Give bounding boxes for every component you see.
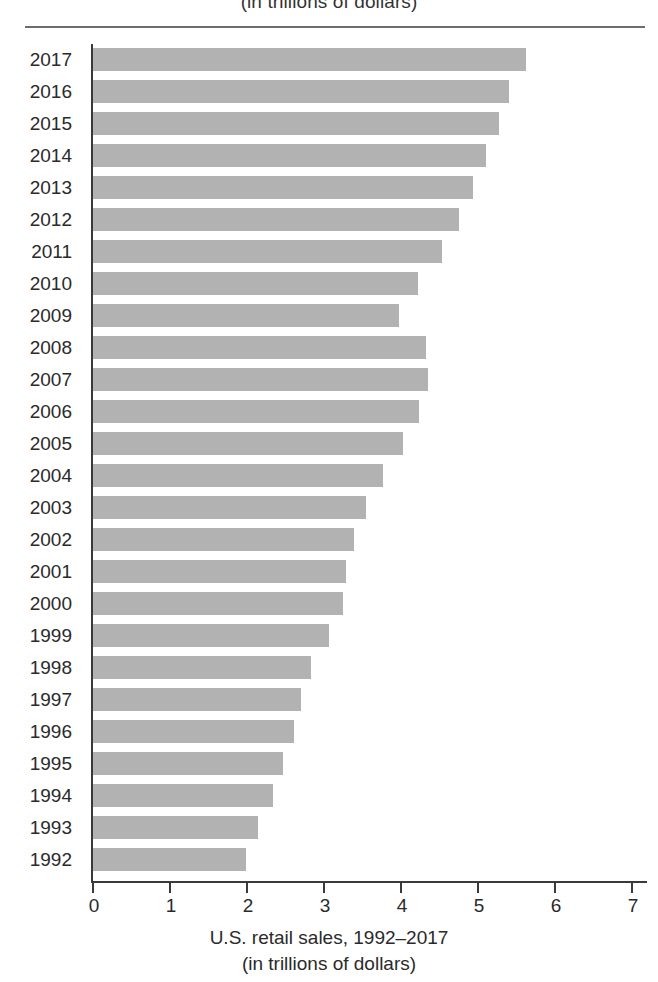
x-axis-tick-label: 1 <box>151 895 191 917</box>
x-axis-caption: U.S. retail sales, 1992–2017 (in trillio… <box>0 925 658 977</box>
bar-row-label: 2017 <box>0 49 72 71</box>
bar-row: 2003 <box>0 496 658 528</box>
bar-row: 2009 <box>0 304 658 336</box>
bar-row: 2010 <box>0 272 658 304</box>
bar-row: 2005 <box>0 432 658 464</box>
bar <box>93 48 526 71</box>
bar-row: 1995 <box>0 752 658 784</box>
bar <box>93 624 329 647</box>
bar <box>93 144 486 167</box>
bar-row-label: 2012 <box>0 209 72 231</box>
bar <box>93 80 509 103</box>
bar <box>93 432 403 455</box>
bar-row-label: 1997 <box>0 689 72 711</box>
bar-row-label: 2014 <box>0 145 72 167</box>
x-axis-tick <box>169 883 171 893</box>
bar-row: 2012 <box>0 208 658 240</box>
bar-row-label: 1996 <box>0 721 72 743</box>
bar-row: 1999 <box>0 624 658 656</box>
x-axis-caption-line2: (in trillions of dollars) <box>0 951 658 977</box>
x-axis-line <box>91 881 647 883</box>
bar-row-label: 2009 <box>0 305 72 327</box>
bar <box>93 752 283 775</box>
bar-row-label: 2006 <box>0 401 72 423</box>
bar <box>93 816 258 839</box>
bar <box>93 528 354 551</box>
bar <box>93 112 499 135</box>
bar-row-label: 2005 <box>0 433 72 455</box>
bar <box>93 336 426 359</box>
bar <box>93 464 383 487</box>
bar-row: 2015 <box>0 112 658 144</box>
bar-row: 2004 <box>0 464 658 496</box>
bar-row-label: 2002 <box>0 529 72 551</box>
x-axis-tick <box>631 883 633 893</box>
bar-row: 1998 <box>0 656 658 688</box>
bar-row-label: 2015 <box>0 113 72 135</box>
bar <box>93 240 442 263</box>
bar-row: 2007 <box>0 368 658 400</box>
bar-row-label: 2008 <box>0 337 72 359</box>
x-axis-tick-label: 3 <box>305 895 345 917</box>
bar-row: 2000 <box>0 592 658 624</box>
bar-row: 1992 <box>0 848 658 880</box>
x-axis-tick <box>323 883 325 893</box>
bar <box>93 560 346 583</box>
x-axis-tick <box>246 883 248 893</box>
bar-chart: 2017201620152014201320122011201020092008… <box>0 0 658 982</box>
bar <box>93 496 366 519</box>
bar-row-label: 1993 <box>0 817 72 839</box>
x-axis-caption-line1: U.S. retail sales, 1992–2017 <box>210 927 449 948</box>
bar <box>93 208 459 231</box>
bar-row-label: 2004 <box>0 465 72 487</box>
bar-row-label: 2000 <box>0 593 72 615</box>
x-axis-tick-label: 4 <box>382 895 422 917</box>
bar <box>93 400 419 423</box>
bar-row: 1994 <box>0 784 658 816</box>
bar <box>93 304 399 327</box>
bar <box>93 656 311 679</box>
bar-row-label: 2010 <box>0 273 72 295</box>
bar-row: 2016 <box>0 80 658 112</box>
bar-row-label: 2013 <box>0 177 72 199</box>
x-axis-tick <box>554 883 556 893</box>
bar-row: 2013 <box>0 176 658 208</box>
bar <box>93 720 294 743</box>
bar-row: 2017 <box>0 48 658 80</box>
bar-rows: 2017201620152014201320122011201020092008… <box>0 48 658 880</box>
x-axis-tick-label: 0 <box>74 895 114 917</box>
bar-row-label: 2011 <box>0 241 72 263</box>
bar-row-label: 1992 <box>0 849 72 871</box>
bar <box>93 688 301 711</box>
bar-row: 1993 <box>0 816 658 848</box>
bar-row-label: 2001 <box>0 561 72 583</box>
bar <box>93 368 428 391</box>
bar-row: 1996 <box>0 720 658 752</box>
x-axis-tick <box>400 883 402 893</box>
bar <box>93 592 343 615</box>
x-axis-tick <box>92 883 94 893</box>
x-axis-tick-label: 5 <box>459 895 499 917</box>
bar-row-label: 2007 <box>0 369 72 391</box>
bar-row-label: 1995 <box>0 753 72 775</box>
bar <box>93 784 273 807</box>
bar-row: 2011 <box>0 240 658 272</box>
bar-row: 2014 <box>0 144 658 176</box>
bar <box>93 848 246 871</box>
x-axis-tick <box>477 883 479 893</box>
x-axis-tick-label: 6 <box>536 895 576 917</box>
bar-row-label: 2003 <box>0 497 72 519</box>
bar-row: 2006 <box>0 400 658 432</box>
bar-row: 1997 <box>0 688 658 720</box>
bar-row-label: 1999 <box>0 625 72 647</box>
x-axis-tick-label: 7 <box>613 895 653 917</box>
bar-row-label: 1998 <box>0 657 72 679</box>
bar-row: 2001 <box>0 560 658 592</box>
x-axis-tick-label: 2 <box>228 895 268 917</box>
bar <box>93 272 418 295</box>
bar-row: 2008 <box>0 336 658 368</box>
bar-row-label: 1994 <box>0 785 72 807</box>
bar <box>93 176 473 199</box>
bar-row-label: 2016 <box>0 81 72 103</box>
bar-row: 2002 <box>0 528 658 560</box>
